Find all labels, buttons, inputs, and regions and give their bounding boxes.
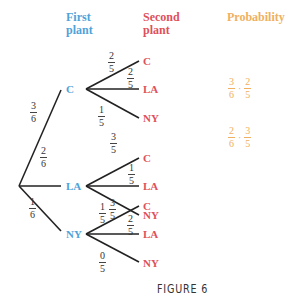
frac-den: 5 xyxy=(129,175,134,186)
frac-num: 1 xyxy=(98,105,105,117)
frac-num: 2 xyxy=(228,126,235,138)
prob-frac-a: 2 6 xyxy=(228,126,235,149)
frac-num: 1 xyxy=(29,197,36,209)
probability-la-c: 2 6 · 3 5 xyxy=(228,126,251,149)
branch-c-ny xyxy=(86,89,139,118)
prob-frac-b: 3 5 xyxy=(244,126,251,149)
header-first-plant-line2: plant xyxy=(66,24,93,37)
header-second-plant-line2: plant xyxy=(143,24,180,37)
frac-num: 3 xyxy=(109,198,116,210)
frac-la-ny: 1 5 xyxy=(99,202,106,225)
frac-den: 5 xyxy=(111,144,116,155)
node-la-c: C xyxy=(143,152,151,164)
probability-c-la: 3 6 · 2 5 xyxy=(228,77,251,100)
branch-ny-ny xyxy=(86,234,139,262)
frac-c-la: 2 5 xyxy=(127,67,134,90)
frac-den: 5 xyxy=(100,214,105,225)
frac-num: 2 xyxy=(108,51,115,63)
node-la-la: LA xyxy=(143,180,158,192)
frac-den: 6 xyxy=(229,89,234,100)
frac-den: 5 xyxy=(109,63,114,74)
frac-root-c: 3 6 xyxy=(30,101,37,124)
node-ny-c: C xyxy=(143,200,151,212)
frac-num: 1 xyxy=(99,202,106,214)
frac-num: 2 xyxy=(244,77,251,89)
frac-den: 5 xyxy=(128,79,133,90)
frac-den: 6 xyxy=(229,138,234,149)
frac-num: 2 xyxy=(127,67,134,79)
branch-root-ny xyxy=(19,186,61,231)
header-probability: Probability xyxy=(227,11,285,24)
header-first-plant: First plant xyxy=(66,11,93,37)
prob-frac-a: 3 6 xyxy=(228,77,235,100)
frac-den: 5 xyxy=(100,263,105,274)
frac-num: 0 xyxy=(99,251,106,263)
frac-den: 5 xyxy=(245,89,250,100)
frac-den: 5 xyxy=(99,117,104,128)
frac-la-la: 1 5 xyxy=(128,163,135,186)
frac-ny-la: 2 5 xyxy=(127,214,134,237)
node-ny-la: LA xyxy=(143,228,158,240)
frac-ny-ny: 0 5 xyxy=(99,251,106,274)
frac-num: 2 xyxy=(40,146,47,158)
node-c-ny: NY xyxy=(143,112,159,124)
frac-num: 3 xyxy=(244,126,251,138)
frac-den: 5 xyxy=(245,138,250,149)
node-first-la: LA xyxy=(66,180,81,192)
frac-la-c: 3 5 xyxy=(110,132,117,155)
frac-den: 5 xyxy=(128,226,133,237)
node-c-la: LA xyxy=(143,83,158,95)
node-c-c: C xyxy=(143,55,151,67)
node-first-ny: NY xyxy=(66,228,82,240)
node-ny-ny: NY xyxy=(143,257,159,269)
frac-den: 6 xyxy=(31,113,36,124)
multiply-dot: · xyxy=(238,83,241,94)
frac-root-ny: 1 6 xyxy=(29,197,36,220)
branch-root-c xyxy=(19,90,61,186)
frac-c-c: 2 5 xyxy=(108,51,115,74)
frac-den: 6 xyxy=(41,158,46,169)
header-second-plant: Second plant xyxy=(143,11,180,37)
node-first-c: C xyxy=(66,83,74,95)
multiply-dot: · xyxy=(238,132,241,143)
figure-caption: FIGURE 6 xyxy=(157,282,208,296)
frac-num: 3 xyxy=(228,77,235,89)
frac-num: 3 xyxy=(30,101,37,113)
frac-den: 5 xyxy=(110,210,115,221)
frac-num: 3 xyxy=(110,132,117,144)
frac-c-ny: 1 5 xyxy=(98,105,105,128)
prob-frac-b: 2 5 xyxy=(244,77,251,100)
frac-den: 6 xyxy=(30,209,35,220)
frac-ny-c: 3 5 xyxy=(109,198,116,221)
frac-root-la: 2 6 xyxy=(40,146,47,169)
frac-num: 2 xyxy=(127,214,134,226)
frac-num: 1 xyxy=(128,163,135,175)
